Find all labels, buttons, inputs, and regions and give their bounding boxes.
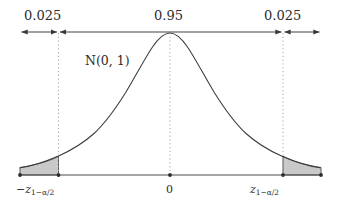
axis-dot-left-end [18,173,22,177]
x-axis-tick-label-right-critical: z1−α/2 [250,184,279,197]
normal-distribution-figure: 0.025 0.95 0.025 N(0, 1) −z1−α/2 0 z1−α/… [0,0,340,210]
right-tail-probability-label: 0.025 [264,9,301,22]
distribution-plot-svg [0,0,340,210]
left-tail-probability-label: 0.025 [24,9,61,22]
x-axis-tick-label-left-critical: −z1−α/2 [16,184,54,197]
left-tail-shaded-region [20,156,59,175]
minus-sign: − [16,183,25,196]
central-probability-label: 0.95 [154,9,183,22]
axis-dot-right-end [319,173,323,177]
z-subscript-left: 1−α/2 [31,188,54,197]
distribution-label: N(0, 1) [85,55,130,68]
x-axis-tick-label-center: 0 [166,184,173,195]
z-subscript-right: 1−α/2 [256,188,279,197]
